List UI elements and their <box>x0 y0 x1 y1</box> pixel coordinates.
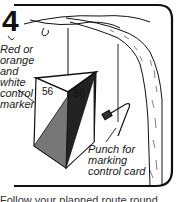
marker-label: Red or orange and white control marker <box>0 44 46 110</box>
marker-label-line: and white <box>0 66 46 88</box>
illustration-panel: 4 Red or orange and white control marker… <box>0 0 178 202</box>
marker-number: 56 <box>74 88 85 99</box>
marker-label-line: marker <box>0 99 46 110</box>
punch-icon <box>102 104 130 136</box>
step-number: 4 <box>2 6 19 36</box>
punch-label: Punch for marking control card <box>88 144 168 177</box>
punch-label-line: control card <box>88 166 168 177</box>
caption-text: Follow your planned route round <box>0 192 178 202</box>
marker-number: 56 <box>42 86 53 97</box>
